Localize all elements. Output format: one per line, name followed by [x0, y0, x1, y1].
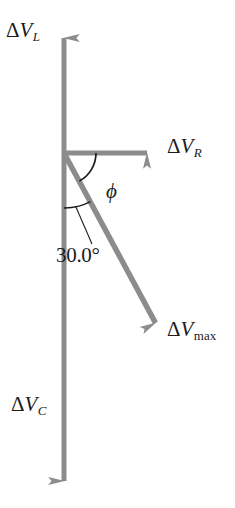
label-delta-v-c: ΔVC [11, 394, 47, 417]
label-delta-v-r: ΔVR [167, 136, 202, 159]
subscript-r: R [194, 145, 202, 160]
label-delta-v-max: ΔVmax [167, 319, 216, 342]
v-glyph: V [181, 134, 194, 158]
delta-glyph: Δ [6, 18, 20, 42]
delta-glyph: Δ [167, 317, 181, 341]
label-thirty-degrees: 30.0° [56, 245, 100, 266]
label-delta-v-l: ΔVL [6, 20, 40, 43]
delta-glyph: Δ [167, 134, 181, 158]
v-glyph: V [20, 18, 33, 42]
v-glyph: V [25, 392, 38, 416]
subscript-c: C [38, 403, 47, 418]
label-phi: ϕ [106, 181, 117, 202]
phasor-diagram [0, 0, 235, 508]
v-glyph: V [181, 317, 194, 341]
delta-glyph: Δ [11, 392, 25, 416]
subscript-l: L [33, 29, 40, 44]
subscript-max: max [194, 328, 216, 343]
